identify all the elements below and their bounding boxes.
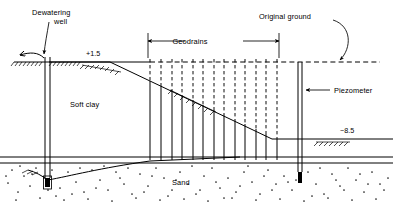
- dewatering-geodrain-figure: Dewatering well Geodrains Original groun…: [0, 0, 393, 209]
- drawdown-curve: [22, 157, 240, 180]
- water-table-symbol-upper: [80, 65, 121, 75]
- elevation-bottom-label: −8.5: [340, 126, 354, 135]
- original-ground-leader: [333, 20, 348, 60]
- water-table-symbol-lower: [314, 142, 350, 146]
- geodrain-group: [150, 59, 277, 160]
- well-discharge-arrow: [20, 53, 44, 58]
- cross-section-drawing: Dewatering well Geodrains Original groun…: [0, 0, 393, 209]
- piezometer[interactable]: [298, 62, 302, 183]
- original-ground-label: Original ground: [259, 12, 311, 21]
- geodrains-label: Geodrains: [173, 37, 208, 46]
- dewatering-well-label-line2: well: [53, 17, 67, 26]
- dewatering-well-label-line1: Dewatering: [32, 8, 70, 17]
- soft-clay-label: Soft clay: [70, 100, 99, 109]
- sand-stipple-pattern: [5, 165, 389, 202]
- piezometer-label: Piezometer: [334, 86, 373, 95]
- sand-label: Sand: [172, 178, 190, 187]
- clay-sand-interface: [0, 157, 393, 163]
- dewatering-well[interactable]: [44, 57, 52, 189]
- geodrains-dimension: [148, 33, 279, 58]
- dewatering-well-leader: [44, 22, 49, 54]
- water-table-symbol-mid: [168, 90, 216, 115]
- elevation-top-label: +1.5: [86, 49, 100, 58]
